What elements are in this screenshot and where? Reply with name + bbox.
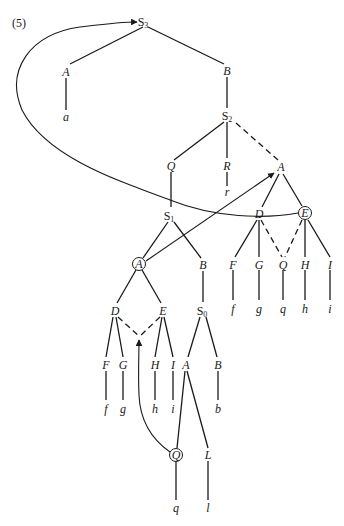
node-r: R: [222, 159, 231, 173]
node-e-circled: E: [300, 206, 309, 220]
node-labels: S3 A a B S2 Q R r A S1 A B D E F G Q H I…: [61, 15, 333, 515]
node-h-right: H: [300, 258, 311, 272]
node-i-right: I: [327, 258, 333, 272]
node-i-left: I: [170, 358, 176, 372]
node-h-left: H: [150, 358, 161, 372]
leaf-f-left: f: [104, 402, 109, 416]
leaf-b-low: b: [215, 402, 221, 416]
node-s1: S1: [164, 209, 175, 224]
node-l: L: [204, 448, 212, 462]
node-a-top: A: [61, 65, 70, 79]
tree-edges: [66, 27, 330, 500]
syntax-tree-diagram: (5): [0, 0, 344, 526]
node-q-circled: Q: [172, 448, 181, 462]
node-d-right: D: [254, 207, 264, 221]
node-b-low: B: [214, 358, 222, 372]
node-q-mid: Q: [167, 159, 176, 173]
leaf-r: r: [225, 185, 230, 199]
leaf-q-right: q: [280, 302, 286, 316]
arrow-q-to-junction: [139, 340, 170, 452]
node-f-left: F: [101, 358, 110, 372]
leaf-h-right: h: [302, 302, 308, 316]
node-a-right: A: [276, 160, 285, 174]
node-d-left: D: [110, 304, 120, 318]
leaf-f-right: f: [231, 302, 236, 316]
node-b-mid: B: [199, 258, 207, 272]
node-g-right: G: [255, 258, 264, 272]
node-a-low: A: [181, 358, 190, 372]
leaf-q-low: q: [173, 501, 179, 515]
node-s3: S3: [138, 15, 149, 30]
node-q-right: Q: [279, 258, 288, 272]
node-b-top: B: [223, 64, 231, 78]
leaf-i-right: i: [328, 302, 331, 316]
arrow-e-to-s3: [17, 22, 298, 216]
figure-label: (5): [12, 16, 26, 30]
node-f-right: F: [228, 258, 237, 272]
node-s2: S2: [222, 109, 233, 124]
leaf-h-left: h: [152, 402, 158, 416]
node-g-left: G: [119, 358, 128, 372]
leaf-l-low: l: [206, 501, 210, 515]
leaf-g-right: g: [256, 302, 262, 316]
leaf-i-left: i: [171, 402, 174, 416]
leaf-a-top: a: [63, 110, 69, 124]
node-s0: S0: [197, 304, 208, 319]
leaf-g-left: g: [120, 402, 126, 416]
node-a-circled: A: [134, 257, 143, 271]
node-e-left: E: [158, 304, 167, 318]
